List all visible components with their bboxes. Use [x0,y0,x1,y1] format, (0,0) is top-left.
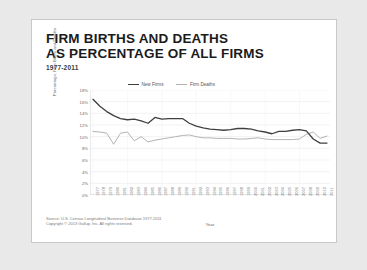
x-tick-label: 1980 [115,187,120,196]
x-tick-label: 1997 [232,187,237,196]
x-tick-label: 1983 [136,187,141,196]
x-tick-label: 1982 [129,187,134,196]
legend-entry-new-firms[interactable]: New Firms [128,82,163,87]
slide-card: FIRM BIRTHS AND DEATHS AS PERCENTAGE OF … [31,19,337,243]
x-tick-label: 2001 [260,187,265,196]
title-line-1: FIRM BIRTHS AND DEATHS [46,31,264,46]
y-tick-label: 16% [80,99,88,104]
y-axis-label: Percentage, Firm Births and Deaths [52,20,57,104]
x-tick-label: 1988 [170,187,175,196]
x-tick-label: 1977 [95,187,100,196]
y-tick-label: 4% [82,169,88,174]
y-tick-label: 14% [80,111,88,116]
chart-area: Percentage, Firm Births and Deaths 0%2%4… [50,90,334,210]
y-tick-label: 0% [82,193,88,198]
x-tick-label: 1996 [225,187,230,196]
legend-entry-firm-deaths[interactable]: Firm Deaths [176,82,215,87]
x-tick-label: 2002 [267,187,272,196]
copyright-note: Copyright © 2013 Gallup, Inc. All rights… [46,221,162,226]
x-tick-label: 1990 [184,187,189,196]
x-tick-label: 1999 [246,187,251,196]
y-tick-label: 10% [80,134,88,139]
legend-label: Firm Deaths [190,82,215,87]
legend-swatch-icon [176,84,187,86]
footer: Source: U.S. Census Longitudinal Busines… [46,216,162,227]
subtitle: 1977-2011 [46,64,79,71]
y-tick-label: 18% [80,88,88,93]
page-title: FIRM BIRTHS AND DEATHS AS PERCENTAGE OF … [46,31,264,61]
legend-swatch-icon [128,84,139,86]
x-tick-label: 1985 [150,187,155,196]
legend-label: New Firms [142,82,164,87]
chart-legend: New FirmsFirm Deaths [128,82,215,87]
x-tick-label: 2000 [253,187,258,196]
title-line-2: AS PERCENTAGE OF ALL FIRMS [46,46,264,61]
x-tick-label: 2004 [280,187,285,196]
x-tick-label: 2010 [322,187,327,196]
plot-lines [90,90,330,195]
x-tick-label: 1979 [108,187,113,196]
x-tick-label: 2006 [294,187,299,196]
x-tick-label: 1986 [157,187,162,196]
x-tick-label: 2003 [274,187,279,196]
x-tick-label: 2011 [329,187,334,196]
x-tick-label: 1998 [239,187,244,196]
x-tick-label: 2008 [308,187,313,196]
x-tick-label: 1978 [101,187,106,196]
y-tick-label: 8% [82,146,88,151]
y-tick-label: 6% [82,158,88,163]
y-axis-ticks: 0%2%4%6%8%10%12%14%16%18% [72,90,89,195]
y-tick-label: 12% [80,123,88,128]
x-tick-label: 1991 [191,187,196,196]
chart-svg [90,90,330,195]
x-tick-label: 2007 [301,187,306,196]
x-tick-label: 1989 [177,187,182,196]
series-line-firm-deaths [93,131,327,144]
x-tick-label: 2005 [287,187,292,196]
x-tick-label: 1994 [212,187,217,196]
x-tick-label: 1981 [122,187,127,196]
x-tick-label: 1984 [143,187,148,196]
x-tick-label: 1993 [205,187,210,196]
x-tick-label: 1992 [198,187,203,196]
x-tick-label: 1987 [163,187,168,196]
x-tick-label: 2009 [315,187,320,196]
y-tick-label: 2% [82,181,88,186]
x-tick-label: 1995 [218,187,223,196]
